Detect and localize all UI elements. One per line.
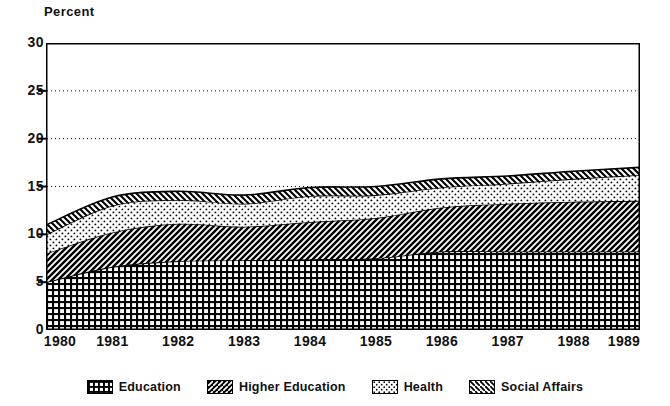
- x-axis-tick-label: 1988: [557, 333, 589, 349]
- legend-item[interactable]: Social Affairs: [469, 380, 583, 394]
- legend-swatch-education: [87, 380, 113, 394]
- plot-area: [46, 43, 640, 330]
- x-axis-labels: 1980198119821983198419851986198719881989: [46, 333, 640, 357]
- x-axis-tick-label: 1982: [162, 333, 194, 349]
- x-axis-tick-label: 1986: [426, 333, 458, 349]
- x-axis-tick-label: 1984: [294, 333, 326, 349]
- x-axis-tick-label: 1980: [44, 333, 76, 349]
- legend-item-label: Education: [119, 380, 181, 394]
- chart-page: Percent 302520151050: [0, 0, 670, 406]
- x-axis-tick-label: 1981: [96, 333, 128, 349]
- legend-swatch-higher-education: [207, 380, 233, 394]
- legend-swatch-social-affairs: [469, 380, 495, 394]
- legend-swatch-health: [372, 380, 398, 394]
- legend-item[interactable]: Health: [372, 380, 443, 394]
- chart-legend: EducationHigher EducationHealthSocial Af…: [0, 372, 670, 402]
- legend-item-label: Social Affairs: [501, 380, 583, 394]
- legend-item[interactable]: Education: [87, 380, 181, 394]
- legend-item-label: Health: [404, 380, 443, 394]
- x-axis-tick-label: 1983: [228, 333, 260, 349]
- x-axis-tick-label: 1987: [492, 333, 524, 349]
- x-axis-tick-label: 1989: [608, 333, 640, 349]
- stacked-area-chart: [46, 43, 640, 330]
- legend-item-label: Higher Education: [239, 380, 346, 394]
- x-axis-tick-label: 1985: [360, 333, 392, 349]
- legend-item[interactable]: Higher Education: [207, 380, 346, 394]
